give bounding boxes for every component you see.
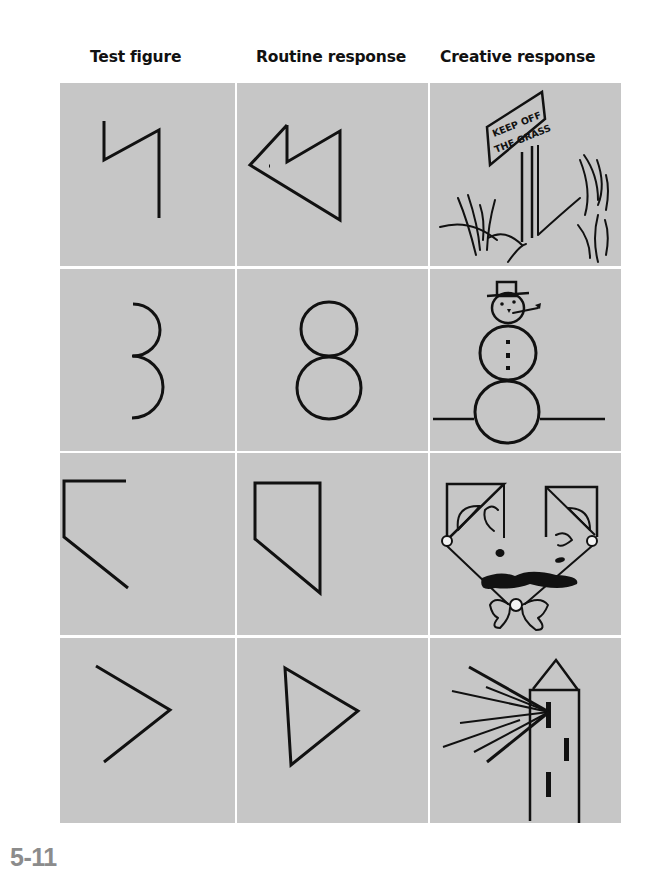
cell-row1-test: [60, 83, 235, 266]
cell-row3-creative: [430, 453, 621, 635]
cell-row1-routine: [237, 83, 428, 266]
cell-row2-test: [60, 269, 235, 451]
cell-row1-creative: KEEP OFF THE GRASS: [430, 83, 621, 266]
zigzag-arrow-triangle-icon: [237, 83, 428, 266]
figure-eight-icon: [237, 269, 428, 451]
cell-row3-routine: [237, 453, 428, 635]
closed-pentagon-icon: [237, 453, 428, 635]
two-semicircles-icon: [60, 269, 235, 451]
mustached-face-icon: [430, 453, 621, 635]
header-creative-response: Creative response: [440, 48, 595, 66]
zigzag-line-icon: [60, 83, 235, 266]
keep-off-grass-sign-icon: KEEP OFF THE GRASS: [430, 83, 621, 266]
angle-bracket-icon: [60, 638, 235, 823]
cell-row2-creative: [430, 269, 621, 451]
lighthouse-icon: [430, 638, 621, 823]
snowman-icon: [430, 269, 621, 451]
cell-row3-test: [60, 453, 235, 635]
cell-row4-test: [60, 638, 235, 823]
cell-row4-routine: [237, 638, 428, 823]
cell-row4-creative: [430, 638, 621, 823]
triangle-icon: [237, 638, 428, 823]
cell-row2-routine: [237, 269, 428, 451]
header-test-figure: Test figure: [90, 48, 181, 66]
header-routine-response: Routine response: [256, 48, 406, 66]
open-bracket-shape-icon: [60, 453, 235, 635]
figure-number-label: 5-11: [10, 843, 57, 872]
